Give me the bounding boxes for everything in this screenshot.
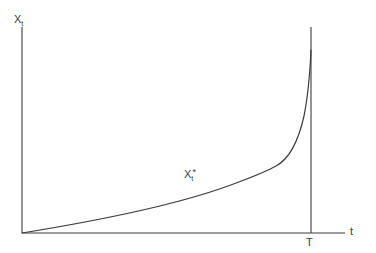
plot-canvas [0, 0, 376, 253]
curve-label-superscript: * [192, 167, 196, 177]
trajectory-curve-label: Xt* [184, 169, 197, 180]
y-axis-label: Xt [14, 14, 23, 25]
trajectory-curve [22, 50, 311, 233]
x-axis-tick-label-T: T [306, 237, 313, 248]
plot-figure: Xt t T Xt* [0, 0, 376, 253]
x-axis-label: t [350, 226, 353, 237]
